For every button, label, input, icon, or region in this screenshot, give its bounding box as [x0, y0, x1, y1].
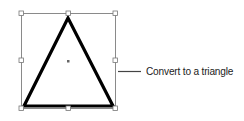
handle-top-left[interactable]	[19, 11, 24, 16]
handle-bottom-right[interactable]	[113, 106, 118, 111]
triangle-diagram	[0, 0, 244, 121]
handle-top-middle[interactable]	[66, 11, 71, 16]
center-point	[67, 60, 70, 63]
handle-middle-left[interactable]	[19, 58, 24, 63]
handle-top-right[interactable]	[113, 11, 118, 16]
handle-bottom-middle[interactable]	[66, 106, 71, 111]
callout-label: Convert to a triangle	[146, 65, 233, 77]
handle-middle-right[interactable]	[113, 58, 118, 63]
handle-bottom-left[interactable]	[19, 106, 24, 111]
